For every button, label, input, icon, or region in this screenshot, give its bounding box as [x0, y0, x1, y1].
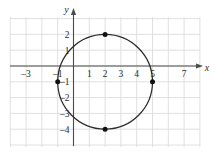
point-bottom-vertex [103, 127, 108, 132]
x-axis-label: x [204, 62, 210, 73]
y-tick-label-neg2: –2 [59, 93, 70, 103]
y-tick-label-neg4: –4 [59, 125, 70, 135]
point-right-vertex [150, 79, 155, 84]
point-top-vertex [103, 32, 108, 37]
y-tick-label-neg1: –1 [59, 77, 70, 87]
x-tick-label-neg3: –3 [20, 69, 31, 79]
y-tick-label-2: 2 [65, 30, 70, 40]
y-tick-label-1: 1 [65, 46, 70, 56]
x-tick-label-4: 4 [134, 69, 139, 79]
ellipse-plot: –3–112345721–1–2–3–4xy [0, 0, 215, 152]
y-tick-label-neg3: –3 [59, 109, 70, 119]
x-tick-label-7: 7 [182, 69, 187, 79]
x-tick-label-1: 1 [87, 69, 92, 79]
x-tick-label-5: 5 [150, 69, 155, 79]
figure-canvas: –3–112345721–1–2–3–4xy [0, 0, 215, 152]
y-axis-label: y [63, 4, 69, 15]
x-tick-label-2: 2 [103, 69, 108, 79]
x-tick-label-3: 3 [119, 69, 124, 79]
